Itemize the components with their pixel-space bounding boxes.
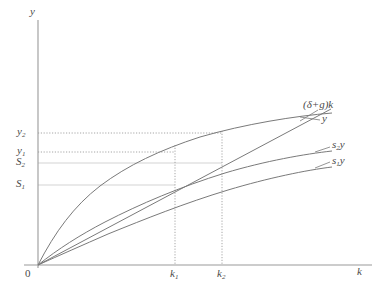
saving-curve-2 [38,151,332,265]
origin-label: 0 [25,268,31,279]
solow-model-figure: y k 0 y2 y1 S2 S1 k1 k2 (δ+g)k y s2y s1y [0,0,388,301]
y-tick-y2: y2 [17,126,25,137]
saving-curve-1 [38,167,332,265]
y-tick-S2: S2 [16,156,25,167]
chart-canvas [0,0,388,301]
saving-curve-1-label: s1y [332,155,345,166]
y-tick-S1: S1 [16,178,25,189]
saving-curve-2-label: s2y [332,139,345,150]
x-tick-k2: k2 [217,268,225,279]
production-function-label: y [322,113,327,124]
production-function-curve [38,113,332,265]
x-axis-label: k [357,266,362,277]
depreciation-line-label: (δ+g)k [303,99,333,110]
y-axis-label: y [30,6,35,17]
x-tick-k1: k1 [170,268,178,279]
